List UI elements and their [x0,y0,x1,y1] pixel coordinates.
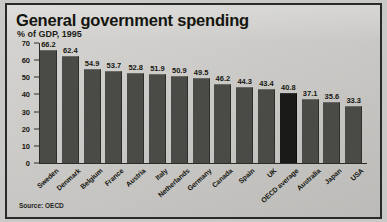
source-note: Source: OECD [19,202,64,209]
x-axis-category-label: UK [266,167,278,179]
chart-subtitle: % of GDP, 1995 [17,29,82,39]
bar [62,56,79,163]
y-axis-tick-label: 40 [22,90,30,99]
bar [149,74,166,163]
x-axis-line [39,163,367,164]
bar-value-label: 43.4 [259,79,274,88]
bar-group: 40.8 [280,43,297,163]
bar [280,93,297,163]
x-axis-category-label: Japan [324,167,343,185]
bar [302,99,319,163]
bar-value-label: 33.3 [346,96,361,105]
bar-value-label: 66.2 [41,40,56,49]
bar-group: 44.3 [236,43,253,163]
bar-series: 66.2Sweden62.4Denmark54.9Belgium53.7Fran… [40,43,370,163]
bar-group: 49.5 [193,43,210,163]
chart-frame: General government spending % of GDP, 19… [5,3,382,219]
x-axis-category-label: USA [349,167,364,182]
x-axis-category-label: Austria [125,167,147,188]
bar-value-label: 40.8 [281,83,296,92]
bar-group: 50.9 [171,43,188,163]
x-axis-category-label: Spain [237,167,255,185]
y-axis-tick-label: 70 [22,39,30,48]
x-axis-category-label: Italy [154,167,169,181]
bar-group: 66.2 [40,43,57,163]
bar-value-label: 51.9 [150,64,165,73]
bar-group: 51.9 [149,43,166,163]
bar [258,89,275,163]
bar-value-label: 46.2 [216,74,231,83]
bar-group: 35.6 [323,43,340,163]
bar [323,102,340,163]
chart-figure: General government spending % of GDP, 19… [0,0,387,222]
y-axis-tick-label: 10 [22,141,30,150]
bar-value-label: 53.7 [107,61,122,70]
x-axis-category-label: France [104,167,125,187]
x-axis-category-label: Belgium [79,167,104,190]
bar [345,106,362,163]
bar-group: 62.4 [62,43,79,163]
y-axis-tick-label: 50 [22,73,30,82]
x-axis-category-label: Canada [211,167,234,189]
y-axis-tick-label: 30 [22,107,30,116]
bar [171,76,188,163]
chart-title: General government spending [16,11,249,30]
y-axis: 010203040506070 [16,43,34,163]
y-axis-tick-label: 20 [22,124,30,133]
bar-value-label: 49.5 [194,68,209,77]
bar-group: 53.7 [105,43,122,163]
bar [236,87,253,163]
bar-group: 43.4 [258,43,275,163]
bar-group: 46.2 [214,43,231,163]
bar-group: 37.1 [302,43,319,163]
plot-area: 010203040506070 66.2Sweden62.4Denmark54.… [16,43,376,193]
bar-value-label: 50.9 [172,66,187,75]
bar [214,84,231,163]
bar-value-label: 52.8 [128,63,143,72]
bar [105,71,122,163]
bar-value-label: 54.9 [85,59,100,68]
y-axis-tick-label: 60 [22,56,30,65]
bar [40,50,57,163]
bar [127,73,144,164]
bar-group: 52.8 [127,43,144,163]
bar-value-label: 37.1 [303,89,318,98]
bar-group: 54.9 [84,43,101,163]
bar-value-label: 35.6 [325,92,340,101]
bar-group: 33.3 [345,43,362,163]
bar-value-label: 62.4 [63,46,78,55]
bar [193,78,210,163]
bar-value-label: 44.3 [237,77,252,86]
y-axis-tick-label: 0 [26,159,30,168]
bar [84,69,101,163]
